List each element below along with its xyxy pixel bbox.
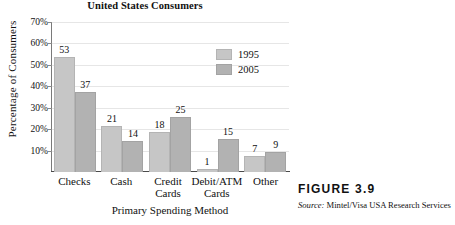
y-tick-mark	[48, 108, 52, 109]
bar-value-label: 37	[80, 80, 90, 90]
bar-2005-checks: 37	[75, 92, 96, 172]
bar-value-label: 1	[205, 157, 210, 167]
bar-1995-cash: 21	[101, 126, 122, 172]
x-tick-label-checks: Checks	[51, 176, 98, 199]
bar-group: 115	[194, 22, 242, 172]
y-tick-mark	[48, 129, 52, 130]
bar-2005-credit-cards: 25	[170, 117, 191, 172]
bar-value-label: 14	[128, 129, 138, 139]
y-tick-mark	[48, 151, 52, 152]
source-text: Mintel/Visa USA Research Services	[327, 200, 451, 210]
y-tick-label: 40%	[18, 82, 48, 91]
bar-group: 2114	[99, 22, 147, 172]
bar-2005-other: 9	[265, 152, 286, 172]
bar-group: 5337	[51, 22, 99, 172]
bar-value-label: 15	[223, 127, 233, 137]
y-tick-label: 50%	[18, 60, 48, 69]
y-tick-label: 20%	[18, 125, 48, 134]
legend-item-2005: 2005	[216, 63, 259, 76]
bar-value-label: 9	[273, 140, 278, 150]
bar-value-label: 7	[252, 144, 257, 154]
bar-group: 79	[241, 22, 289, 172]
y-tick-mark	[48, 43, 52, 44]
legend-swatch-2005	[216, 64, 232, 75]
legend: 1995 2005	[216, 48, 259, 78]
y-tick-label: 10%	[18, 146, 48, 155]
bar-value-label: 18	[154, 120, 164, 130]
figure-number: FIGURE 3.9	[298, 182, 455, 196]
x-tick-label-credit-cards: CreditCards	[145, 176, 192, 199]
bar-1995-credit-cards: 18	[149, 132, 170, 172]
legend-swatch-1995	[216, 49, 232, 60]
chart-title: United States Consumers	[0, 0, 290, 11]
plot-area: 53372114182511579	[51, 22, 289, 172]
x-tick-label-other: Other	[242, 176, 289, 199]
figure-caption: FIGURE 3.9 Source: Mintel/Visa USA Resea…	[298, 182, 455, 210]
bar-groups: 53372114182511579	[51, 22, 289, 172]
x-axis-category-labels: ChecksCashCreditCardsDebit/ATMCardsOther	[51, 176, 289, 199]
source-prefix: Source:	[298, 200, 324, 210]
bar-value-label: 21	[107, 114, 117, 124]
y-tick-mark	[48, 22, 52, 23]
y-axis-tick-labels: 10%20%30%40%50%60%70%	[18, 18, 48, 168]
y-tick-label: 30%	[18, 103, 48, 112]
bar-group: 1825	[146, 22, 194, 172]
y-tick-mark	[48, 86, 52, 87]
bar-1995-debit-atm-cards: 1	[197, 169, 218, 172]
bar-1995-other: 7	[244, 156, 265, 172]
figure-page: United States Consumers Percentage of Co…	[0, 0, 455, 225]
bar-value-label: 53	[59, 45, 69, 55]
y-tick-label: 70%	[18, 18, 48, 27]
x-tick-label-debit-atm-cards: Debit/ATMCards	[191, 176, 242, 199]
legend-label-1995: 1995	[238, 50, 259, 60]
bar-2005-debit-atm-cards: 15	[218, 139, 239, 172]
x-tick-label-cash: Cash	[98, 176, 145, 199]
figure-source: Source: Mintel/Visa USA Research Service…	[298, 200, 455, 210]
bar-value-label: 25	[175, 105, 185, 115]
bar-2005-cash: 14	[122, 141, 143, 172]
bar-1995-checks: 53	[54, 57, 75, 172]
legend-label-2005: 2005	[238, 65, 259, 75]
bar-chart: Percentage of Consumers 10%20%30%40%50%6…	[0, 18, 292, 178]
legend-item-1995: 1995	[216, 48, 259, 61]
y-axis-title: Percentage of Consumers	[6, 9, 18, 149]
chart-title-block: United States Consumers	[0, 0, 290, 11]
y-tick-mark	[48, 65, 52, 66]
y-tick-label: 60%	[18, 39, 48, 48]
x-axis-title: Primary Spending Method	[51, 204, 289, 216]
